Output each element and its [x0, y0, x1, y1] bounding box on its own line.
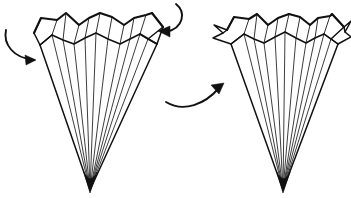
diagram-background	[0, 0, 351, 198]
diagram-root	[0, 0, 351, 198]
fan-folding-diagram	[0, 0, 351, 198]
